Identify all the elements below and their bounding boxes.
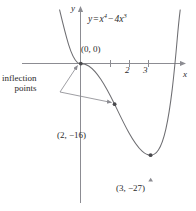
point-marker-2-neg16 <box>113 102 117 106</box>
x-axis-label: x <box>183 70 187 79</box>
leader-line-to-origin <box>60 66 78 93</box>
graph-figure: y x y=x4−4x3 2 3 (0, 0) (2, −16) (3, −27… <box>0 0 196 211</box>
x-tick-label-3: 3 <box>143 66 148 75</box>
x-tick-label-2: 2 <box>125 66 130 75</box>
inflection-caption-line-1: inflection <box>2 73 37 83</box>
inflection-caption-line-2: points <box>2 83 37 93</box>
curve-equation-label: y=x4−4x3 <box>88 15 127 25</box>
point-marker-origin <box>79 62 83 66</box>
leader-line-to-point-2 <box>60 92 112 103</box>
tick-marker-point-3 <box>148 178 153 182</box>
minimum-point-3-label: (3, −27) <box>116 184 145 193</box>
inflection-points-caption: inflection points <box>2 73 37 94</box>
y-axis-label: y <box>71 4 75 13</box>
inflection-point-2-label: (2, −16) <box>57 131 86 140</box>
origin-point-label: (0, 0) <box>81 45 101 54</box>
graph-canvas <box>0 0 196 211</box>
equation-term2-exponent: 3 <box>123 12 126 19</box>
equation-equals: = <box>92 14 99 24</box>
point-marker-3-neg27 <box>149 153 153 157</box>
